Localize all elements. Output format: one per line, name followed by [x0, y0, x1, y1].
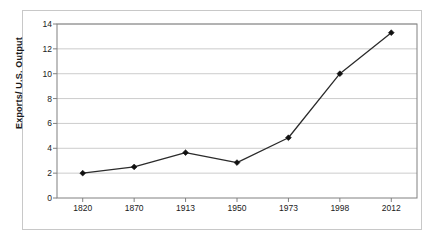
x-tick-label-2012: 2012 — [368, 203, 414, 213]
data-line-series-0 — [83, 33, 392, 173]
y-tick-label-2: 2 — [34, 168, 52, 178]
y-tick-label-6: 6 — [34, 118, 52, 128]
x-tick-label-1998: 1998 — [317, 203, 363, 213]
x-axis-tick-labels: 1820187019131950197319982012 — [0, 203, 445, 219]
y-axis-title: Exports/ U.S. Output — [14, 18, 24, 148]
y-tick-label-0: 0 — [34, 193, 52, 203]
y-tick-label-8: 8 — [34, 94, 52, 104]
data-point-1950 — [234, 160, 240, 166]
x-tick-label-1820: 1820 — [60, 203, 106, 213]
y-tick-label-12: 12 — [34, 44, 52, 54]
x-tick-label-1870: 1870 — [111, 203, 157, 213]
x-tick-label-1950: 1950 — [214, 203, 260, 213]
x-tick-label-1913: 1913 — [163, 203, 209, 213]
data-point-1870 — [131, 164, 137, 170]
plot-area-border — [57, 24, 417, 198]
y-tick-label-10: 10 — [34, 69, 52, 79]
y-tick-label-4: 4 — [34, 143, 52, 153]
y-tick-label-14: 14 — [34, 19, 52, 29]
data-point-1913 — [183, 150, 189, 156]
x-tick-label-1973: 1973 — [265, 203, 311, 213]
data-point-1820 — [80, 170, 86, 176]
